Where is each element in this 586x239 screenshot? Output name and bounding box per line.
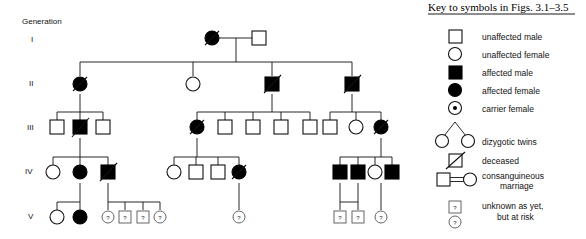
individual-IV-7[interactable] [232,165,246,179]
generation-label-I: I [31,35,33,44]
individual-IV-6[interactable] [211,165,225,179]
generation-label-V: V [28,212,34,221]
individual-III-8[interactable] [303,120,317,134]
individual-II-2[interactable] [186,77,200,91]
individual-III-9[interactable] [323,120,337,134]
legend-row-affected-male: affected male [449,66,533,79]
legend-label: affected female [482,86,540,96]
legend-row-unknown-at-risk: ? ? unknown as yet, but at risk [449,201,543,228]
generation-header: Generation [22,17,62,26]
affected-female-icon [449,84,462,97]
legend-label: affected male [482,68,533,78]
individual-III-11[interactable] [374,120,388,134]
legend-row-dizygotic-twins: dizygotic twins [436,122,537,148]
unaffected-female-icon [449,48,462,61]
individual-I-2[interactable] [252,31,266,45]
individual-V-3[interactable]: ? [102,211,114,223]
individual-V-10[interactable]: ? [375,211,387,223]
individual-IV-1[interactable] [46,165,60,179]
individual-IV-3[interactable] [100,163,117,181]
legend-label: unaffected male [482,32,543,42]
generation-label-IV: IV [25,167,33,176]
individual-II-1[interactable] [73,77,87,91]
generation-label-III: III [27,123,34,132]
pedigree-canvas: Generation I II III IV V [0,0,586,239]
individual-IV-8[interactable] [333,165,347,179]
individual-III-1[interactable] [50,120,64,134]
individual-IV-11[interactable] [385,165,399,179]
unaffected-male-icon [449,30,462,43]
legend-label: carrier female [482,104,534,114]
consanguineous-marriage-icon [437,173,450,186]
individual-IV-4[interactable] [167,165,181,179]
legend: Key to symbols in Figs. 3.1–3.5 unaffect… [428,1,575,228]
individual-V-2[interactable] [73,210,87,224]
legend-label: unknown as yet, [482,201,543,211]
individual-IV-2[interactable] [73,165,87,179]
legend-row-deceased: deceased [446,152,519,169]
legend-label: dizygotic twins [482,137,537,147]
individual-V-4[interactable]: ? [119,211,131,223]
carrier-dot-icon [453,106,457,110]
individual-IV-5[interactable] [189,165,203,179]
generation-label-II: II [29,79,33,88]
individual-V-9[interactable]: ? [352,211,364,223]
pedigree-figure: Generation I II III IV V [0,0,586,239]
affected-male-icon [449,66,462,79]
individual-V-8[interactable]: ? [334,211,346,223]
individual-IV-9[interactable] [351,165,365,179]
legend-row-unaffected-female: unaffected female [449,48,550,61]
individual-V-6[interactable]: ? [154,211,166,223]
legend-label-line2: but at risk [497,212,535,222]
individual-V-7[interactable]: ? [233,211,245,223]
individual-III-3[interactable] [96,120,110,134]
legend-row-affected-female: affected female [449,84,541,97]
individual-III-2[interactable] [72,118,89,137]
individual-I-1[interactable] [205,31,219,45]
individual-II-4[interactable] [344,75,361,93]
individual-III-10[interactable] [349,120,363,134]
individual-III-4[interactable] [190,120,204,134]
dizygotic-twin-b-icon [462,135,475,148]
individual-V-1[interactable] [50,210,64,224]
individual-III-6[interactable] [246,120,260,134]
legend-label: unaffected female [482,50,550,60]
legend-row-consanguineous-marriage: consanguineous marriage [437,171,544,191]
consanguineous-partner-icon [464,173,477,186]
legend-row-carrier-female: carrier female [449,102,535,115]
individual-II-3[interactable] [264,75,281,93]
legend-row-unaffected-male: unaffected male [449,30,543,43]
individual-III-5[interactable] [218,120,232,134]
dizygotic-twins-icon [436,135,449,148]
legend-label-line2: marriage [500,181,534,191]
legend-title: Key to symbols in Figs. 3.1–3.5 [428,1,569,13]
legend-label: deceased [482,156,519,166]
legend-label: consanguineous [482,171,544,181]
individual-V-5[interactable]: ? [137,211,149,223]
individual-III-7[interactable] [274,120,288,134]
individual-IV-10[interactable] [368,165,382,179]
